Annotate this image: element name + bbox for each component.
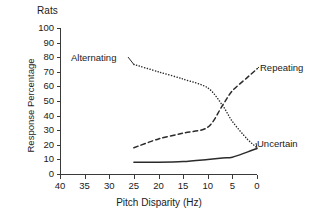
x-tick-label: 30	[98, 181, 120, 191]
chart-title: Rats	[37, 5, 58, 17]
y-tick-label: 50	[28, 96, 54, 106]
y-tick-label: 90	[28, 38, 54, 48]
x-tick-label: 15	[172, 181, 194, 191]
series-line-uncertain	[134, 148, 257, 162]
axes-layer	[57, 28, 258, 179]
x-axis-title: Pitch Disparity (Hz)	[60, 197, 258, 209]
x-tick-label: 35	[74, 181, 96, 191]
series-label-alternating: Alternating	[71, 52, 116, 63]
y-tick-label: 40	[28, 111, 54, 121]
x-tick-label: 40	[49, 181, 71, 191]
series-line-alternating	[134, 65, 257, 148]
y-tick-label: 0	[28, 169, 54, 179]
series-line-repeating	[134, 69, 257, 148]
leader-repeating	[257, 67, 259, 69]
series-label-repeating: Repeating	[260, 62, 303, 73]
series-layer	[134, 65, 257, 163]
x-tick-label: 25	[123, 181, 145, 191]
y-tick-label: 30	[28, 125, 54, 135]
x-tick-label: 0	[246, 181, 268, 191]
x-tick-label: 10	[197, 181, 219, 191]
axis-lines	[61, 28, 258, 175]
y-tick-label: 70	[28, 67, 54, 77]
y-tick-label: 20	[28, 140, 54, 150]
x-tick-label: 5	[221, 181, 243, 191]
y-tick-label: 80	[28, 52, 54, 62]
x-tick-label: 20	[148, 181, 170, 191]
y-tick-label: 60	[28, 81, 54, 91]
series-label-uncertain: Uncertain	[257, 138, 298, 149]
leader-alternating	[128, 57, 134, 65]
y-tick-label: 100	[28, 23, 54, 33]
chart-container: Rats Response Percentage Pitch Disparity…	[0, 0, 312, 216]
y-tick-label: 10	[28, 154, 54, 164]
leader-lines	[128, 57, 259, 148]
